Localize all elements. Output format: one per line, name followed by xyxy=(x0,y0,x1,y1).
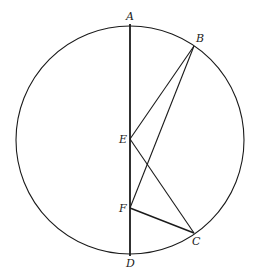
segment-FC xyxy=(130,208,194,233)
label-C: C xyxy=(192,235,201,248)
segment-EC xyxy=(130,139,194,233)
label-F: F xyxy=(118,202,127,215)
geometry-diagram: A B C D E F xyxy=(0,0,253,279)
label-A: A xyxy=(125,10,134,23)
label-B: B xyxy=(195,32,204,45)
label-E: E xyxy=(118,133,127,146)
segment-EB xyxy=(130,46,194,139)
segment-FB xyxy=(130,46,194,208)
label-D: D xyxy=(125,257,135,270)
